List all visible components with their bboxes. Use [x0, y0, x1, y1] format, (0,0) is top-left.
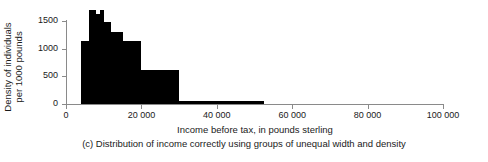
x-axis-title: Income before tax, in pounds sterling	[66, 124, 444, 135]
histogram-bar	[111, 32, 122, 104]
figure: 020 00040 00060 00080 000100 000 0500100…	[0, 0, 488, 162]
histogram-bar	[81, 41, 89, 104]
x-tick-mark	[443, 105, 444, 109]
x-tick-mark	[66, 105, 67, 109]
y-tick-mark	[62, 76, 66, 77]
y-axis-title-line-2: per 1000 pounds	[13, 7, 24, 127]
histogram-bar	[89, 10, 97, 104]
x-tick-label: 40 000	[177, 110, 257, 120]
y-tick-label: 1500	[20, 16, 58, 25]
x-tick-mark	[368, 105, 369, 109]
y-tick-label: 0	[20, 99, 58, 108]
x-tick-label: 80 000	[328, 110, 408, 120]
x-axis-line	[66, 104, 444, 105]
x-tick-label: 0	[26, 110, 106, 120]
y-tick-mark	[62, 21, 66, 22]
x-tick-mark	[217, 105, 218, 109]
x-tick-label: 100 000	[403, 110, 483, 120]
x-tick-label: 60 000	[252, 110, 332, 120]
y-axis-title-line-1: Density of individuals	[2, 7, 13, 127]
y-axis-title: Density of individuals per 1000 pounds	[2, 7, 24, 127]
y-tick-mark	[62, 104, 66, 105]
histogram-bar	[141, 70, 179, 104]
y-tick-label: 500	[20, 71, 58, 80]
y-axis-line	[66, 20, 67, 105]
y-tick-mark	[62, 49, 66, 50]
figure-caption: (c) Distribution of income correctly usi…	[0, 138, 488, 150]
y-tick-label: 1000	[20, 44, 58, 53]
x-tick-label: 20 000	[101, 110, 181, 120]
histogram-bar	[104, 22, 112, 104]
x-tick-mark	[292, 105, 293, 109]
histogram-bar	[123, 41, 142, 104]
x-tick-mark	[141, 105, 142, 109]
